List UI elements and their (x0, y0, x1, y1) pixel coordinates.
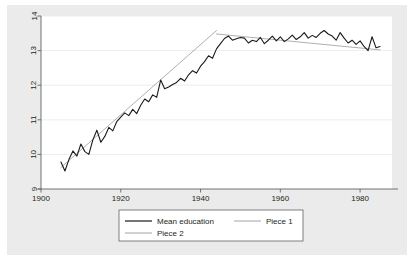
y-tick-label-12: 12 (30, 80, 39, 89)
x-axis-ticks: 19001920194019601980 (32, 189, 369, 203)
x-tick-label-1920: 1920 (112, 194, 130, 203)
y-axis-ticks: 91011121314 (30, 11, 42, 191)
x-tick-label-1940: 1940 (192, 194, 210, 203)
x-tick-label-1960: 1960 (271, 194, 289, 203)
chart-figure: 19001920194019601980 91011121314 Mean ed… (0, 0, 414, 262)
x-tick-label-1900: 1900 (32, 194, 50, 203)
y-tick-label-13: 13 (30, 46, 39, 55)
chart-canvas: 19001920194019601980 91011121314 Mean ed… (0, 0, 414, 262)
x-tick-label-1980: 1980 (351, 194, 369, 203)
chart-legend[interactable]: Mean education Piece 1 Piece 2 (119, 210, 303, 241)
y-tick-label-9: 9 (30, 186, 39, 191)
plot-area-background (41, 16, 392, 189)
legend-label-piece-1: Piece 1 (266, 217, 293, 226)
legend-label-piece-2: Piece 2 (157, 229, 184, 238)
y-tick-label-10: 10 (30, 149, 39, 158)
y-tick-label-14: 14 (30, 11, 39, 20)
plot-background-group (41, 16, 392, 189)
y-tick-label-11: 11 (30, 115, 39, 124)
legend-label-mean-education: Mean education (157, 217, 214, 226)
